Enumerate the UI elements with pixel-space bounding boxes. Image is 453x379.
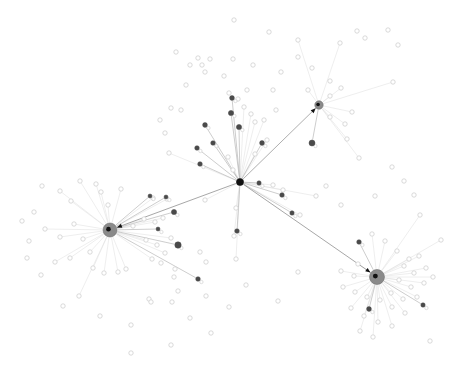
graph-node-leaf	[158, 118, 162, 122]
graph-node-core-hub	[236, 178, 243, 185]
graph-node-leaf	[383, 239, 387, 243]
graph-node-satellite	[234, 99, 237, 102]
graph-node-leaf	[391, 80, 395, 84]
graph-node-leaf	[232, 18, 236, 22]
graph-node-leaf	[196, 56, 200, 60]
graph-node-leaf	[328, 115, 332, 119]
graph-node-leaf	[407, 257, 411, 261]
graph-node-leaf	[124, 267, 128, 271]
graph-node-leaf	[353, 290, 357, 294]
graph-node-leaf	[188, 316, 192, 320]
graph-node-leaf	[409, 285, 413, 289]
graph-node-mid	[421, 303, 425, 307]
graph-node-leaf	[253, 120, 257, 124]
graph-node-leaf	[99, 190, 103, 194]
graph-node-leaf	[169, 236, 173, 240]
graph-node-leaf	[376, 320, 380, 324]
graph-node-leaf	[271, 88, 275, 92]
graph-node-leaf	[91, 266, 95, 270]
graph-node-mid	[280, 193, 285, 198]
graph-node-satellite	[202, 165, 205, 168]
graph-node-leaf	[159, 261, 163, 265]
graph-node-leaf	[227, 91, 231, 95]
graph-node-leaf	[251, 63, 255, 67]
graph-node-satellite	[152, 197, 155, 200]
graph-node-leaf	[68, 256, 72, 260]
graph-node-leaf	[296, 38, 300, 42]
graph-node-leaf	[88, 250, 92, 254]
graph-node-leaf	[188, 63, 192, 67]
graph-node-hub-core	[373, 274, 378, 279]
graph-node-leaf	[389, 291, 393, 295]
graph-node-leaf	[306, 88, 310, 92]
graph-node-satellite	[284, 196, 287, 199]
graph-node-leaf	[363, 36, 367, 40]
graph-node-leaf	[234, 257, 238, 261]
network-graph-canvas	[0, 0, 453, 379]
graph-node-leaf	[324, 184, 328, 188]
graph-node-leaf	[358, 329, 362, 333]
graph-node-leaf	[129, 323, 133, 327]
graph-node-leaf	[20, 219, 24, 223]
graph-node-leaf	[371, 335, 375, 339]
graph-node-leaf	[150, 257, 154, 261]
graph-node-leaf	[310, 66, 314, 70]
graph-node-mid	[164, 195, 168, 199]
graph-node-leaf	[155, 243, 159, 247]
graph-node-leaf	[25, 256, 29, 260]
graph-node-leaf	[245, 88, 249, 92]
graph-node-mid	[257, 181, 261, 185]
graph-node-leaf	[58, 235, 62, 239]
graph-node-leaf	[144, 238, 148, 242]
graph-node-leaf	[356, 262, 360, 266]
graph-node-leaf	[69, 199, 73, 203]
graph-node-leaf	[417, 254, 421, 258]
graph-node-leaf	[204, 260, 208, 264]
graph-node-leaf	[163, 251, 167, 255]
graph-node-leaf	[172, 275, 176, 279]
graph-node-leaf	[116, 270, 120, 274]
graph-node-leaf	[27, 239, 31, 243]
graph-node-leaf	[431, 275, 435, 279]
graph-node-leaf	[357, 156, 361, 160]
graph-node-leaf	[142, 217, 146, 221]
graph-node-leaf	[265, 138, 269, 142]
graph-node-leaf	[153, 220, 157, 224]
graph-node-leaf	[209, 331, 213, 335]
graph-node-leaf	[276, 299, 280, 303]
graph-node-leaf	[373, 194, 377, 198]
graph-node-leaf	[395, 249, 399, 253]
graph-node-leaf	[428, 339, 432, 343]
graph-node-leaf	[422, 281, 426, 285]
graph-node-leaf	[244, 283, 248, 287]
graph-node-leaf	[242, 105, 246, 109]
graph-node-leaf	[77, 294, 81, 298]
graph-node-mid	[198, 162, 203, 167]
graph-node-leaf	[234, 206, 238, 210]
graph-node-mid	[290, 211, 294, 215]
graph-node-satellite	[207, 126, 210, 129]
graph-node-satellite	[176, 213, 179, 216]
graph-node-mid	[228, 110, 233, 115]
graph-node-mid	[195, 146, 200, 151]
graph-node-leaf	[200, 63, 204, 67]
graph-node-leaf	[402, 179, 406, 183]
graph-node-leaf	[78, 179, 82, 183]
graph-node-leaf	[267, 30, 271, 34]
graph-node-leaf	[203, 70, 207, 74]
graph-node-mid	[171, 209, 176, 214]
graph-node-leaf	[149, 300, 153, 304]
graph-node-leaf	[362, 314, 366, 318]
graph-node-mid	[156, 227, 160, 231]
graph-node-leaf	[253, 152, 257, 156]
graph-node-satellite	[239, 232, 242, 235]
graph-node-satellite	[215, 144, 218, 147]
graph-node-leaf	[424, 266, 428, 270]
graph-node-leaf	[378, 298, 382, 302]
graph-node-leaf	[397, 278, 401, 282]
graph-node-leaf	[174, 50, 178, 54]
graph-node-leaf	[370, 232, 374, 236]
graph-node-mid	[196, 277, 201, 282]
graph-node-leaf	[281, 188, 285, 192]
graph-node-leaf	[390, 324, 394, 328]
